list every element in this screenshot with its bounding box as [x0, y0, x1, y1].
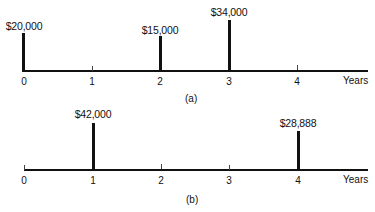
- year-label-a-0: 0: [21, 76, 27, 87]
- year-label-b-1: 1: [90, 175, 96, 186]
- cash-flow-bar-a-0: [22, 33, 25, 72]
- year-label-a-3: 3: [226, 76, 232, 87]
- cash-flow-bar-a-2: [159, 36, 162, 72]
- year-label-b-4: 4: [295, 175, 301, 186]
- cash-flow-bar-b-1: [92, 123, 95, 171]
- axis-label-years-a: Years: [343, 75, 368, 86]
- tick-b-3: [229, 165, 230, 170]
- amount-a-2: $15,000: [142, 24, 179, 36]
- amount-a-3: $34,000: [211, 6, 248, 18]
- year-label-b-0: 0: [21, 175, 27, 186]
- tick-b-2: [161, 164, 162, 169]
- caption-a: (a): [185, 93, 197, 104]
- year-label-a-2: 2: [157, 76, 163, 87]
- cash-flow-bar-b-4: [297, 131, 300, 171]
- cash-flow-bar-a-3: [228, 20, 231, 72]
- year-label-b-2: 2: [158, 175, 164, 186]
- timeline-axis-a: [23, 70, 368, 72]
- year-label-a-1: 1: [89, 76, 95, 87]
- tick-b-0: [24, 165, 25, 170]
- amount-b-1: $42,000: [75, 108, 112, 120]
- timeline-axis-b: [24, 169, 368, 171]
- year-label-b-3: 3: [226, 175, 232, 186]
- caption-b: (b): [186, 194, 198, 205]
- year-label-a-4: 4: [294, 76, 300, 87]
- amount-a-0: $20,000: [6, 20, 43, 32]
- axis-label-years-b: Years: [343, 174, 368, 185]
- tick-a-1: [92, 66, 93, 71]
- amount-b-4: $28,888: [280, 117, 317, 129]
- tick-a-4: [297, 65, 298, 70]
